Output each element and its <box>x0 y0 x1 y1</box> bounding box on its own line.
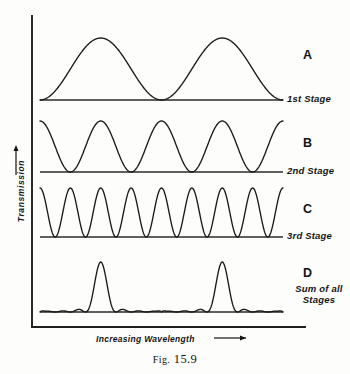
curve-stage-d <box>40 262 283 312</box>
figure-caption-number: 15.9 <box>174 352 197 366</box>
figure-15-9: A B C D 1st Stage 2nd Stage 3rd Stage Su… <box>0 0 350 374</box>
curve-stage-a <box>40 38 283 100</box>
stage-caption-sum-of-all-stages: Sum of all Stages <box>287 283 350 305</box>
curve-stage-b <box>40 121 283 172</box>
x-axis-arrow-icon <box>214 335 246 340</box>
figure-caption: Fig. 15.9 <box>0 352 350 367</box>
stage-caption-1st-stage: 1st Stage <box>287 93 331 104</box>
stage-caption-line-1: Sum of all <box>287 283 350 294</box>
stage-caption-line-2: Stages <box>287 294 350 305</box>
x-axis-label: Increasing Wavelength <box>96 334 195 344</box>
lyot-filter-plot <box>0 0 350 374</box>
figure-caption-prefix: Fig. <box>153 354 170 365</box>
curve-stage-c <box>40 188 283 237</box>
stage-caption-3rd-stage: 3rd Stage <box>287 230 332 241</box>
stage-caption-2nd-stage: 2nd Stage <box>287 165 334 176</box>
y-axis-label: Transmission <box>16 146 26 236</box>
stage-letter-c: C <box>303 202 313 216</box>
stage-letter-b: B <box>303 136 313 150</box>
stage-letter-d: D <box>303 266 313 280</box>
stage-letter-a: A <box>303 48 313 62</box>
